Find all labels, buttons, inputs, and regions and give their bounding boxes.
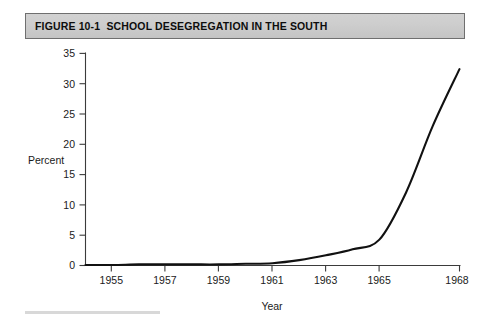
y-axis-title: Percent — [28, 154, 64, 166]
y-tick-label: 0 — [69, 259, 75, 271]
chart-plot-area: 0 5 10 15 20 25 30 35 1955 19 — [0, 40, 489, 321]
y-tick-label: 30 — [63, 78, 75, 90]
x-tick-label: 1957 — [153, 274, 177, 286]
y-tick-label: 10 — [63, 199, 75, 211]
desegregation-percent-line — [86, 69, 460, 265]
line-chart-svg: 0 5 10 15 20 25 30 35 1955 19 — [0, 40, 489, 321]
y-tick-label: 25 — [63, 108, 75, 120]
x-tick-label: 1965 — [367, 274, 391, 286]
y-tick-label: 5 — [69, 229, 75, 241]
footer-divider — [25, 311, 160, 314]
x-tick-label: 1961 — [260, 274, 284, 286]
y-tick-label: 20 — [63, 138, 75, 150]
x-tick-label: 1959 — [207, 274, 231, 286]
x-tick-label: 1963 — [314, 274, 338, 286]
y-tick-label: 35 — [63, 47, 75, 59]
y-tick-label: 15 — [63, 168, 75, 180]
figure-title: FIGURE 10-1 SCHOOL DESEGREGATION IN THE … — [26, 20, 327, 32]
x-axis-title: Year — [261, 300, 283, 312]
x-axis-ticks — [111, 266, 459, 272]
x-tick-label: 1968 — [445, 274, 469, 286]
x-axis-tick-labels: 1955 1957 1959 1961 1963 1965 1968 — [100, 274, 469, 286]
figure-title-bar: FIGURE 10-1 SCHOOL DESEGREGATION IN THE … — [25, 13, 465, 39]
figure-container: FIGURE 10-1 SCHOOL DESEGREGATION IN THE … — [0, 0, 489, 321]
x-tick-label: 1955 — [100, 274, 124, 286]
y-axis-tick-labels: 0 5 10 15 20 25 30 35 — [63, 47, 75, 271]
y-axis-ticks — [80, 53, 86, 265]
